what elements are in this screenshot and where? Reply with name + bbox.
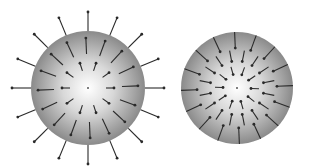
outward-arrow (16, 58, 35, 67)
arrow-head-icon (196, 88, 199, 91)
arrow-head-icon (132, 66, 135, 69)
arrow-head-icon (61, 87, 64, 90)
arrow-head-icon (104, 40, 107, 43)
center-point (236, 87, 238, 89)
arrow-head-icon (209, 116, 212, 119)
arrow-head-icon (234, 47, 237, 50)
arrow-head-icon (213, 102, 216, 105)
arrow-head-icon (33, 33, 36, 36)
converging-field-sphere (181, 32, 293, 144)
arrow-head-icon (230, 113, 233, 116)
arrow-head-icon (198, 73, 201, 76)
outward-arrow (110, 16, 119, 35)
arrow-head-icon (87, 11, 90, 14)
outward-arrow (141, 110, 160, 119)
arrow-head-icon (224, 94, 227, 97)
arrow-head-icon (50, 53, 53, 56)
arrow-head-icon (262, 81, 265, 84)
arrow-head-icon (239, 100, 242, 103)
arrow-head-icon (58, 157, 61, 160)
arrow-head-icon (241, 60, 244, 63)
outward-arrow (141, 58, 160, 67)
center-point (87, 87, 89, 89)
figure-stage (0, 0, 310, 167)
arrow-head-icon (240, 73, 243, 76)
arrow-head-icon (16, 58, 19, 61)
arrow-head-icon (262, 92, 265, 95)
arrow-head-icon (237, 127, 240, 130)
outward-arrow (110, 141, 119, 160)
arrow-head-icon (40, 69, 43, 72)
outward-arrow (87, 145, 90, 165)
outward-arrow (87, 11, 90, 31)
arrow-head-icon (209, 92, 212, 95)
arrow-head-icon (232, 73, 235, 76)
arrow-head-icon (108, 71, 111, 74)
arrow-head-icon (66, 71, 69, 74)
arrow-head-icon (225, 78, 228, 81)
arrow-head-icon (276, 85, 279, 88)
outward-arrow (58, 141, 67, 160)
arrow-head-icon (272, 70, 275, 73)
arrow-head-icon (53, 123, 56, 126)
arrow-head-icon (263, 57, 266, 60)
arrow-head-icon (258, 72, 261, 75)
arrow-head-icon (116, 157, 119, 160)
arrow-head-icon (66, 41, 69, 44)
arrow-head-icon (33, 140, 36, 143)
arrow-head-icon (95, 111, 98, 114)
arrow-head-icon (16, 116, 19, 119)
outward-arrow (128, 33, 143, 48)
outward-arrow (33, 128, 48, 143)
arrow-head-icon (251, 109, 254, 112)
arrow-head-icon (134, 104, 137, 107)
field-diagram (0, 0, 310, 167)
arrow-head-icon (37, 89, 40, 92)
arrow-head-icon (113, 87, 116, 90)
arrow-head-icon (252, 123, 255, 126)
outward-arrow (58, 16, 67, 35)
arrow-head-icon (140, 33, 143, 36)
arrow-head-icon (157, 116, 160, 119)
arrow-head-icon (140, 140, 143, 143)
arrow-head-icon (209, 81, 212, 84)
arrow-head-icon (79, 62, 82, 65)
diverging-field-sphere (11, 11, 166, 166)
arrow-head-icon (157, 58, 160, 61)
arrow-head-icon (249, 49, 252, 52)
arrow-head-icon (41, 108, 44, 111)
outward-arrow (33, 33, 48, 48)
arrow-head-icon (258, 102, 261, 105)
arrow-head-icon (273, 100, 276, 103)
arrow-head-icon (79, 111, 82, 114)
arrow-head-icon (123, 120, 126, 123)
arrow-head-icon (69, 134, 72, 137)
arrow-head-icon (247, 79, 250, 82)
arrow-head-icon (222, 124, 225, 127)
outward-arrow (16, 110, 35, 119)
arrow-head-icon (213, 72, 216, 75)
arrow-head-icon (66, 102, 69, 105)
arrow-head-icon (230, 60, 233, 63)
arrow-head-icon (163, 87, 166, 90)
arrow-head-icon (199, 103, 202, 106)
outward-arrow (145, 87, 165, 90)
arrow-head-icon (222, 86, 225, 89)
outward-arrow (11, 87, 31, 90)
arrow-head-icon (137, 84, 140, 87)
arrow-head-icon (247, 95, 250, 98)
arrow-head-icon (206, 60, 209, 63)
arrow-head-icon (116, 16, 119, 19)
arrow-head-icon (219, 50, 222, 53)
arrow-head-icon (95, 62, 98, 65)
arrow-head-icon (241, 113, 244, 116)
arrow-head-icon (89, 137, 92, 140)
arrow-head-icon (108, 102, 111, 105)
arrow-head-icon (108, 132, 111, 135)
outward-arrow (128, 128, 143, 143)
arrow-head-icon (84, 37, 87, 40)
arrow-head-icon (231, 100, 234, 103)
arrow-head-icon (58, 16, 61, 19)
arrow-head-icon (265, 114, 268, 117)
arrow-head-icon (221, 64, 224, 67)
